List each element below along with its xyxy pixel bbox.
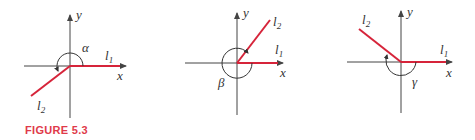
svg-text:l1: l1 bbox=[105, 48, 113, 65]
angle-label: α bbox=[82, 40, 90, 55]
line-l2 bbox=[359, 29, 401, 62]
svg-text:l2: l2 bbox=[37, 98, 46, 115]
line-l2 bbox=[237, 20, 270, 63]
y-label: y bbox=[74, 7, 82, 22]
y-label: y bbox=[405, 4, 413, 19]
y-label: y bbox=[241, 5, 249, 20]
panel-beta: y x l1 l2 β bbox=[185, 5, 286, 115]
figure-caption: FIGURE 5.3 bbox=[25, 124, 88, 136]
angle-label: β bbox=[217, 75, 225, 90]
svg-text:l1: l1 bbox=[275, 42, 283, 59]
angle-label: γ bbox=[412, 74, 418, 89]
x-label: x bbox=[445, 65, 452, 80]
line-l2 bbox=[31, 66, 70, 96]
svg-text:l1: l1 bbox=[440, 42, 448, 59]
panel-gamma: y x l1 l2 γ bbox=[347, 4, 452, 113]
figure-canvas: y x l1 l2 α y x l1 l2 β y x l1 l2 γ bbox=[0, 0, 475, 140]
svg-text:l2: l2 bbox=[362, 12, 371, 29]
x-label: x bbox=[279, 65, 286, 80]
panel-alpha: y x l1 l2 α bbox=[24, 7, 126, 118]
x-label: x bbox=[116, 68, 123, 83]
svg-text:l2: l2 bbox=[273, 14, 282, 31]
